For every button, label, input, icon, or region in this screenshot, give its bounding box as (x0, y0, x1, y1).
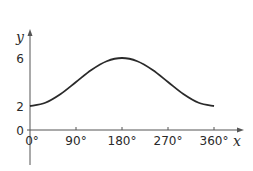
y-axis-arrow-icon (28, 29, 33, 36)
chart: y x 0°90°180°270°360°026 (0, 0, 253, 171)
x-tick-label: 270° (154, 134, 183, 148)
x-tick-label: 180° (108, 134, 137, 148)
series (30, 58, 214, 106)
ticks: 0°90°180°270°360°026 (16, 52, 228, 149)
x-axis-label: x (233, 133, 241, 149)
x-tick-label: 90° (65, 134, 86, 148)
y-tick-label: 0 (16, 124, 24, 138)
x-tick-label: 0° (25, 134, 39, 148)
y-axis-label: y (15, 29, 25, 45)
y-tick-label: 6 (16, 52, 24, 66)
series-line (30, 58, 214, 106)
y-tick-label: 2 (16, 100, 24, 114)
x-axis-arrow-icon (237, 128, 244, 133)
x-tick-label: 360° (200, 134, 229, 148)
